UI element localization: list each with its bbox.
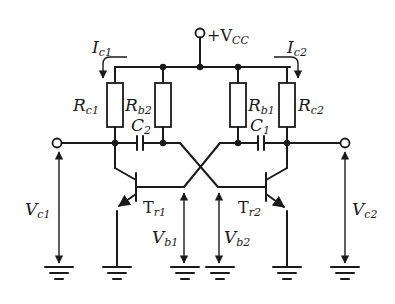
label-c2: C2	[131, 115, 151, 137]
ground-icon	[206, 267, 234, 279]
label-tr2: Tr2	[238, 198, 261, 219]
output-terminal-left	[53, 139, 62, 148]
label-vc1: Vc1	[25, 199, 50, 221]
ground-icon	[171, 267, 199, 279]
cross-coupling	[136, 143, 266, 187]
transistor-tr2	[266, 143, 287, 267]
label-ic2: Ic2	[286, 37, 307, 59]
ground-icon	[45, 267, 73, 279]
resistor-rc1	[107, 67, 123, 143]
transistor-tr1	[115, 143, 136, 267]
label-ic1: Ic1	[91, 37, 112, 59]
label-rb2: Rb2	[124, 95, 152, 117]
ground-icon	[331, 267, 359, 279]
right-collector-node	[220, 136, 350, 150]
ground-icon	[103, 267, 131, 279]
label-rb1: Rb1	[247, 95, 275, 117]
output-terminal-right	[341, 139, 350, 148]
circuit-diagram: +VCC Ic1 Ic2 Rc1 Rb2 Rb1 Rc2 C2 C1 Tr1 T…	[0, 0, 395, 304]
label-rc1: Rc1	[72, 95, 99, 117]
label-rc2: Rc2	[297, 95, 324, 117]
left-collector-node	[53, 136, 181, 150]
label-tr1: Tr1	[143, 198, 166, 219]
resistor-rc2	[279, 67, 295, 143]
resistor-rb1	[230, 67, 246, 143]
vcc-terminal	[196, 29, 205, 38]
label-c1: C1	[250, 115, 270, 137]
resistor-rb2	[155, 67, 171, 143]
label-vb2: Vb2	[224, 227, 250, 249]
vcc-supply	[115, 29, 290, 71]
label-vcc: +VCC	[207, 26, 249, 47]
label-vb1: Vb1	[152, 227, 178, 249]
label-vc2: Vc2	[352, 199, 377, 221]
ground-icon	[273, 267, 301, 279]
